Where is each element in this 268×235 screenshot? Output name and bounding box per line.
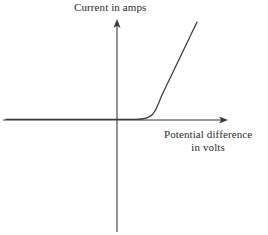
diode-iv-characteristic-figure: Current in amps Potential difference in … — [0, 0, 268, 235]
x-axis-label-line1: Potential difference — [164, 128, 252, 140]
diode-iv-curve — [6, 22, 197, 119]
x-axis-label-line2: in volts — [164, 141, 252, 154]
x-axis-label: Potential difference in volts — [164, 128, 252, 153]
plot-area — [0, 0, 268, 235]
bottom-caption-fragment — [2, 229, 122, 235]
y-axis-label: Current in amps — [74, 1, 146, 14]
